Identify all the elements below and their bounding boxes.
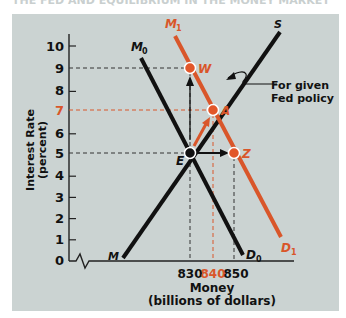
svg-text:4: 4: [55, 168, 64, 183]
svg-text:0: 0: [256, 255, 262, 264]
svg-text:6: 6: [55, 126, 64, 141]
money-market-chart: 0 1 2 3 4 5 6 7 8 9 10 Interest Rate (pe…: [0, 0, 346, 318]
svg-text:(percent): (percent): [36, 121, 49, 179]
svg-text:1: 1: [55, 232, 64, 247]
svg-text:850: 850: [223, 267, 248, 281]
y-axis-label: Interest Rate (percent): [24, 109, 49, 191]
svg-text:0: 0: [142, 47, 148, 56]
label-z: Z: [241, 147, 251, 161]
svg-text:8: 8: [55, 83, 64, 98]
svg-text:7: 7: [55, 103, 64, 118]
svg-text:2: 2: [55, 211, 64, 226]
svg-text:(billions of dollars): (billions of dollars): [148, 294, 276, 308]
svg-text:1: 1: [176, 24, 182, 33]
label-a: A: [220, 104, 230, 118]
svg-text:D: D: [246, 248, 256, 262]
svg-text:For given: For given: [271, 79, 329, 92]
x-tick-labels: 830 840 850: [177, 267, 248, 281]
point-a: [208, 105, 219, 116]
point-w: [185, 63, 196, 74]
label-m0: M 0: [131, 40, 148, 56]
label-d0: D 0: [246, 248, 262, 264]
svg-text:10: 10: [46, 39, 64, 54]
label-m-bottom: M: [108, 250, 119, 263]
label-w: W: [198, 62, 212, 76]
svg-text:840: 840: [200, 267, 225, 281]
label-m1: M 1: [165, 17, 182, 33]
svg-text:5: 5: [55, 146, 64, 161]
annotation-arrowhead: [226, 72, 236, 80]
svg-text:830: 830: [177, 267, 202, 281]
svg-text:3: 3: [55, 190, 64, 205]
label-e: E: [176, 154, 185, 168]
svg-text:D: D: [281, 241, 291, 255]
svg-text:0: 0: [55, 253, 64, 268]
arrow-e-to-w: [186, 76, 194, 140]
y-ticks: [69, 46, 76, 240]
svg-text:Money: Money: [190, 281, 235, 295]
x-axis-label: Money (billions of dollars): [148, 281, 276, 308]
svg-text:1: 1: [291, 248, 297, 257]
point-z: [229, 148, 240, 159]
annotation-text: For given Fed policy: [271, 79, 334, 105]
label-s: S: [274, 18, 282, 31]
point-e: [185, 148, 196, 159]
svg-text:9: 9: [55, 61, 64, 76]
svg-text:Fed policy: Fed policy: [271, 92, 334, 105]
label-d1: D 1: [281, 241, 297, 257]
